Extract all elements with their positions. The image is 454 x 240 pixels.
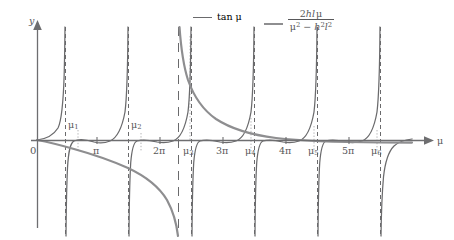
intersection-droplines [78, 36, 377, 152]
root-label-mu4: μ4 [245, 146, 256, 157]
root-label-mu6: μ6 [371, 146, 382, 157]
legend-label-hyperbola: 2hl μ μ2 − h2l2 [288, 8, 334, 32]
root-label-mu3: μ3 [183, 146, 194, 157]
legend-label-tan: tan μ [217, 11, 242, 22]
tan-asymptotes [66, 27, 381, 236]
y-axis-label: y [29, 16, 34, 26]
x-tick-label-2pi: 2π [153, 146, 165, 156]
fraction-denominator: μ2 − h2l2 [288, 19, 334, 32]
x-tick-label-4pi: 4π [279, 146, 291, 156]
legend-swatch-tan-icon [193, 17, 212, 18]
x-axis-label: μ [437, 136, 443, 146]
plot-figure: tan μ 2hl μ μ2 − h2l2 y μ 0 π 2π 3π 4π 5… [0, 0, 454, 240]
legend: tan μ 2hl μ μ2 − h2l2 [193, 11, 334, 35]
origin-label: 0 [30, 146, 36, 156]
legend-item-tan: tan μ [193, 11, 242, 22]
x-tick-label-3pi: 3π [216, 146, 228, 156]
root-label-mu5: μ5 [308, 146, 319, 157]
root-label-mu1: μ1 [68, 120, 79, 131]
numerator-variable: μ [316, 8, 322, 19]
x-tick-label-pi: π [93, 146, 99, 156]
fraction-numerator: 2hl μ [288, 8, 334, 19]
x-tick-label-5pi: 5π [342, 146, 354, 156]
legend-swatch-hyperbola-icon [264, 23, 283, 25]
legend-item-hyperbola: 2hl μ μ2 − h2l2 [264, 11, 334, 35]
tan-curve [37, 27, 412, 236]
numerator-hl: hl [306, 8, 315, 19]
root-label-mu2: μ2 [131, 120, 142, 131]
hyperbola-curve [37, 27, 412, 236]
